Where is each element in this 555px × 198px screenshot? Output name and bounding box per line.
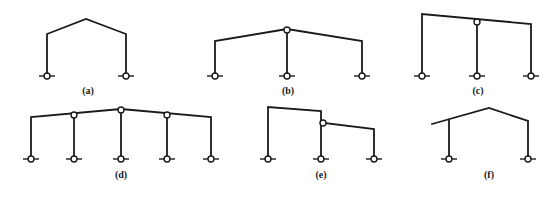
pinned-support-icon [212, 73, 218, 79]
pinned-support-icon [446, 156, 452, 162]
frame-member [47, 19, 126, 76]
panel-label: (a) [82, 85, 94, 97]
panel-label: (e) [315, 169, 326, 181]
panel-label: (d) [115, 169, 127, 181]
pinned-support-icon [525, 156, 531, 162]
frame-member [268, 107, 321, 159]
internal-hinge-icon [118, 107, 124, 113]
pinned-support-icon [123, 73, 129, 79]
frame-panel-f: (f) [432, 108, 536, 181]
internal-hinge-icon [164, 112, 170, 118]
pinned-support-icon [28, 156, 34, 162]
internal-hinge-icon [474, 19, 480, 25]
pinned-support-icon [118, 156, 124, 162]
internal-hinge-icon [284, 27, 290, 33]
pinned-support-icon [208, 156, 214, 162]
pinned-support-icon [164, 156, 170, 162]
frame-member [324, 123, 374, 159]
portal-frame-diagram: (a)(b)(c)(d)(e)(f) [0, 0, 555, 198]
internal-hinge-icon [320, 120, 326, 126]
pinned-support-icon [528, 73, 534, 79]
pinned-support-icon [265, 156, 271, 162]
frame-panel-a: (a) [39, 19, 134, 97]
panel-label: (f) [484, 169, 494, 181]
frame-member [215, 29, 362, 76]
pinned-support-icon [359, 73, 365, 79]
frame-panel-b: (b) [207, 27, 370, 97]
pinned-support-icon [44, 73, 50, 79]
pinned-support-icon [71, 156, 77, 162]
pinned-support-icon [284, 73, 290, 79]
internal-hinge-icon [71, 112, 77, 118]
panel-label: (b) [282, 85, 294, 97]
pinned-support-icon [371, 156, 377, 162]
pinned-support-icon [318, 156, 324, 162]
frame-member [432, 108, 528, 159]
panel-label: (c) [472, 85, 483, 97]
frame-panel-e: (e) [260, 107, 382, 181]
frame-panel-c: (c) [414, 14, 539, 97]
pinned-support-icon [419, 73, 425, 79]
frame-panel-d: (d) [23, 107, 219, 181]
pinned-support-icon [474, 73, 480, 79]
